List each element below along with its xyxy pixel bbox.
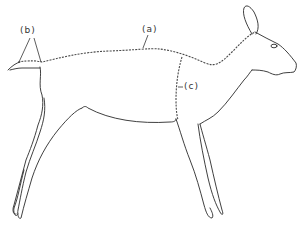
- measurement-line-c: [176, 57, 182, 120]
- measurement-line-a: [18, 32, 255, 65]
- deer-eye: [271, 44, 277, 48]
- deer-neck-front: [200, 70, 252, 124]
- label-b: (b): [20, 26, 36, 35]
- leader-a: [143, 35, 148, 48]
- label-a: (a): [142, 25, 158, 34]
- deer-figure: (b) (a) (c): [0, 0, 304, 230]
- deer-drawing: [0, 0, 304, 230]
- deer-front-leg-rear: [176, 119, 213, 218]
- deer-ear: [243, 6, 258, 34]
- deer-head: [252, 32, 296, 75]
- deer-belly: [82, 107, 176, 123]
- deer-hind-leg: [18, 98, 82, 218]
- deer-front-leg-inner: [198, 124, 223, 214]
- label-c: (c): [184, 82, 199, 91]
- leader-b-right: [34, 38, 41, 62]
- deer-tail: [8, 62, 40, 70]
- deer-hind-leg-2: [14, 170, 24, 216]
- leader-b-left: [19, 38, 30, 62]
